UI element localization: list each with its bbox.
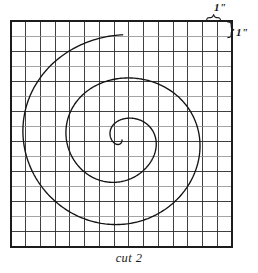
dimension-label-vertical: 1" xyxy=(236,27,248,38)
figure-caption: cut 2 xyxy=(0,252,258,265)
vertical-brace-icon xyxy=(228,22,234,38)
figure-container: 1" 1" cut 2 xyxy=(0,0,258,273)
spiral-on-grid-drawing xyxy=(0,0,258,273)
dimension-braces xyxy=(207,15,234,38)
dimension-label-horizontal: 1" xyxy=(214,2,226,13)
